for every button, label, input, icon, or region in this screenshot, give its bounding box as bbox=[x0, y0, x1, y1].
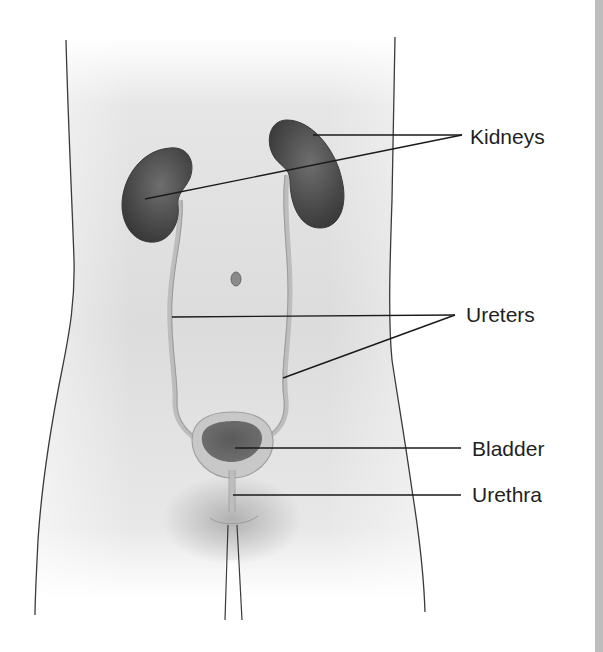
page-edge-bar bbox=[595, 0, 603, 652]
label-kidneys: Kidneys bbox=[470, 126, 545, 147]
label-bladder: Bladder bbox=[472, 438, 544, 459]
label-ureters: Ureters bbox=[466, 304, 535, 325]
torso bbox=[35, 37, 425, 615]
label-urethra: Urethra bbox=[472, 484, 542, 505]
urinary-system-illustration bbox=[0, 0, 603, 652]
navel bbox=[231, 272, 241, 286]
